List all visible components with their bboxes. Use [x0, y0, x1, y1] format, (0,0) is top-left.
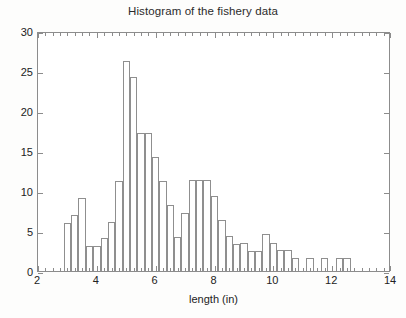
x-tick-mark — [259, 33, 260, 36]
histogram-bar — [108, 222, 115, 271]
y-axis-tick-labels: 051015202530 — [3, 32, 33, 272]
x-tick-mark — [82, 268, 83, 271]
x-tick-mark — [215, 266, 216, 271]
x-tick-mark — [369, 268, 370, 271]
x-tick-mark — [317, 268, 318, 271]
x-tick-mark — [156, 33, 157, 38]
histogram-bar — [152, 157, 159, 271]
x-tick-mark — [97, 266, 98, 271]
histogram-bar — [115, 181, 122, 271]
x-tick-mark — [229, 268, 230, 271]
x-tick-mark — [45, 33, 46, 36]
x-tick-mark — [156, 266, 157, 271]
x-tick-mark — [266, 268, 267, 271]
x-tick-mark — [362, 33, 363, 36]
x-tick-mark — [141, 268, 142, 271]
x-tick-mark — [207, 268, 208, 271]
x-tick-mark — [178, 268, 179, 271]
histogram-bar — [196, 180, 203, 271]
y-tick-mark — [384, 193, 389, 194]
x-tick-mark — [67, 268, 68, 271]
y-tick-label: 5 — [7, 226, 33, 238]
x-tick-mark — [295, 268, 296, 271]
x-tick-mark — [192, 268, 193, 271]
y-tick-mark — [38, 73, 43, 74]
x-tick-mark — [354, 33, 355, 36]
x-tick-mark — [273, 266, 274, 271]
x-tick-label: 6 — [152, 274, 158, 286]
y-tick-mark — [38, 153, 43, 154]
x-tick-mark — [45, 268, 46, 271]
histogram-bar — [130, 77, 137, 271]
x-tick-label: 12 — [325, 274, 337, 286]
x-tick-mark — [332, 33, 333, 38]
page-title: Histogram of the fishery data — [0, 5, 406, 17]
x-tick-mark — [200, 268, 201, 271]
x-tick-mark — [104, 33, 105, 36]
x-tick-mark — [192, 33, 193, 36]
y-tick-mark — [384, 233, 389, 234]
x-tick-mark — [281, 268, 282, 271]
histogram-bar — [101, 238, 108, 271]
x-tick-mark — [288, 33, 289, 36]
x-tick-mark — [222, 33, 223, 36]
x-tick-mark — [207, 33, 208, 36]
x-tick-mark — [237, 268, 238, 271]
histogram-figure: Histogram of the fishery data 0510152025… — [0, 0, 406, 318]
histogram-bar — [123, 61, 130, 271]
histogram-bar — [211, 196, 218, 271]
x-tick-mark — [340, 33, 341, 36]
x-tick-mark — [390, 33, 391, 38]
x-tick-mark — [376, 33, 377, 36]
x-tick-mark — [303, 33, 304, 36]
x-tick-mark — [251, 268, 252, 271]
x-tick-mark — [163, 33, 164, 36]
x-tick-label: 14 — [384, 274, 396, 286]
x-tick-label: 2 — [34, 274, 40, 286]
x-tick-mark — [362, 268, 363, 271]
histogram-bar — [71, 215, 78, 271]
x-tick-mark — [75, 33, 76, 36]
x-tick-mark — [134, 268, 135, 271]
x-tick-mark — [266, 33, 267, 36]
x-tick-mark — [384, 33, 385, 36]
y-tick-mark — [384, 33, 389, 34]
histogram-bar — [262, 234, 269, 271]
y-tick-label: 0 — [7, 266, 33, 278]
x-tick-mark — [126, 33, 127, 36]
x-tick-mark — [148, 268, 149, 271]
y-tick-label: 30 — [7, 26, 33, 38]
x-tick-mark — [53, 33, 54, 36]
x-tick-mark — [53, 268, 54, 271]
x-tick-mark — [259, 268, 260, 271]
x-tick-mark — [347, 268, 348, 271]
histogram-bar — [203, 180, 210, 271]
y-tick-mark — [38, 233, 43, 234]
x-tick-mark — [38, 33, 39, 38]
x-tick-mark — [126, 268, 127, 271]
x-tick-mark — [67, 33, 68, 36]
x-tick-mark — [244, 268, 245, 271]
histogram-bar — [78, 198, 85, 271]
x-tick-mark — [119, 33, 120, 36]
x-tick-mark — [60, 268, 61, 271]
x-tick-mark — [148, 33, 149, 36]
x-tick-mark — [112, 33, 113, 36]
x-tick-mark — [354, 268, 355, 271]
x-tick-mark — [89, 268, 90, 271]
x-tick-mark — [178, 33, 179, 36]
x-tick-mark — [229, 33, 230, 36]
x-tick-mark — [104, 268, 105, 271]
x-tick-label: 4 — [93, 274, 99, 286]
x-tick-mark — [163, 268, 164, 271]
x-tick-label: 8 — [210, 274, 216, 286]
x-tick-mark — [119, 268, 120, 271]
histogram-bar — [167, 205, 174, 271]
y-tick-mark — [384, 153, 389, 154]
x-tick-mark — [60, 33, 61, 36]
x-tick-mark — [295, 33, 296, 36]
y-tick-mark — [384, 73, 389, 74]
x-tick-mark — [288, 268, 289, 271]
x-tick-mark — [38, 266, 39, 271]
x-tick-mark — [273, 33, 274, 38]
